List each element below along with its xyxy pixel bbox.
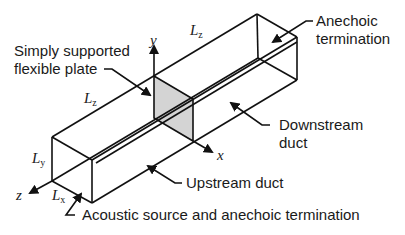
lz-left-label: Lz [83, 90, 97, 108]
source-leader [66, 194, 81, 215]
x-axis-arrow [193, 141, 212, 152]
source-label: Acoustic source and anechoic termination [82, 206, 360, 223]
lz-top-label: Lz [189, 22, 203, 40]
duct-diagram: Simply supported flexible plate Anechoic… [0, 0, 405, 235]
y-axis-label: y [148, 32, 157, 48]
anechoic-label-line1: Anechoic [316, 12, 378, 29]
downstream-leader [231, 103, 270, 125]
plate-label-line2: flexible plate [14, 60, 97, 77]
upstream-leader [148, 166, 182, 183]
z-axis-arrow [30, 181, 52, 193]
downstream-label-line2: duct [279, 134, 308, 151]
plate-label-line1: Simply supported [14, 42, 130, 59]
x-axis-label: x [216, 147, 224, 163]
z-axis-label: z [15, 187, 22, 203]
downstream-label-line1: Downstream [279, 116, 363, 133]
ly-label: Ly [31, 150, 45, 168]
lx-label: Lx [51, 187, 65, 205]
anechoic-label-line2: termination [316, 30, 390, 47]
upstream-label: Upstream duct [186, 174, 284, 191]
